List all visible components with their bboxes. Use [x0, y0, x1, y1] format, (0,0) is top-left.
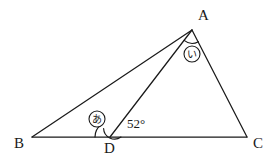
vertex-label-c: C: [253, 136, 263, 151]
angle-arc-dac: [184, 40, 198, 43]
geometry-figure: [0, 0, 276, 162]
vertex-label-b: B: [14, 136, 24, 151]
angle-mark-dac-text: い: [187, 49, 197, 60]
segment-ad: [110, 30, 192, 137]
segment-ba: [32, 30, 192, 137]
angle-value-adc: 52°: [127, 117, 145, 130]
circled-kana-a-icon: あ: [88, 110, 106, 128]
circled-kana-i-icon: い: [183, 45, 201, 63]
diagram-canvas: A B C D 52° あ い: [0, 0, 276, 162]
angle-mark-adb-text: あ: [92, 114, 102, 125]
vertex-label-a: A: [198, 8, 209, 23]
angle-mark-adb: あ: [88, 110, 106, 128]
vertex-label-d: D: [104, 141, 115, 156]
angle-mark-dac: い: [183, 45, 201, 63]
